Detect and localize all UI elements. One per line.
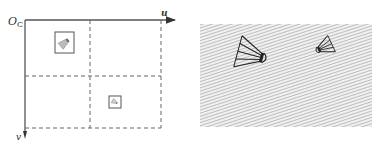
v-axis-arrow: [23, 131, 27, 139]
scene-panel: [200, 24, 372, 127]
image-coordinate-frame: OC u v: [8, 8, 175, 142]
v-axis-label: v: [16, 132, 21, 142]
figure: OC u v: [0, 0, 383, 151]
u-axis-label: u: [161, 8, 168, 18]
quadrant-grid: [25, 20, 161, 128]
thumbnail-box-bottom-right: [109, 96, 121, 108]
origin-label: OC: [8, 15, 23, 29]
thumbnail-box-top-left: [55, 32, 74, 53]
hatched-background: [200, 24, 372, 127]
